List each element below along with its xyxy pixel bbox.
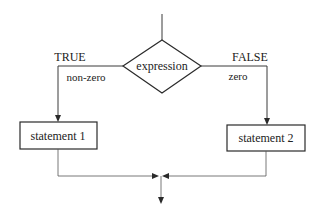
statement-1-label: statement 1 — [31, 129, 86, 143]
statement-2-node: statement 2 — [227, 125, 305, 151]
false-branch-arrow-icon — [264, 118, 270, 125]
false-sublabel: zero — [229, 70, 248, 82]
merge-line-right — [168, 151, 266, 176]
decision-label: expression — [136, 59, 187, 73]
statement-1-node: statement 1 — [20, 122, 97, 149]
exit-arrow-icon — [158, 197, 164, 204]
merge-arrow-right-icon — [162, 173, 169, 179]
flowchart: expression TRUE non-zero FALSE zero stat… — [0, 0, 321, 219]
merge-arrow-left-icon — [152, 173, 159, 179]
decision-node: expression — [123, 40, 201, 93]
false-label: FALSE — [232, 50, 268, 64]
merge-line-left — [58, 149, 154, 176]
true-label: TRUE — [54, 50, 85, 64]
true-branch-arrow-icon — [55, 115, 61, 122]
true-sublabel: non-zero — [66, 71, 106, 83]
statement-2-label: statement 2 — [239, 131, 294, 145]
